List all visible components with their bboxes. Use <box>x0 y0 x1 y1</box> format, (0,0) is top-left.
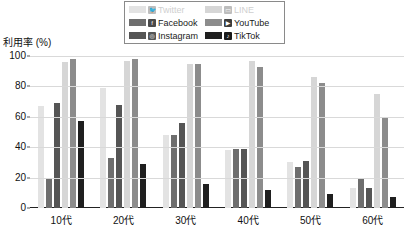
y-tick-mark <box>27 56 30 57</box>
y-tick-mark <box>27 86 30 87</box>
bar-facebook-30代 <box>171 135 177 208</box>
bar-facebook-10代 <box>46 179 52 208</box>
bar-twitter-30代 <box>163 135 169 208</box>
bar-facebook-50代 <box>295 167 301 208</box>
y-tick-mark <box>27 177 30 178</box>
x-tick-label-50代: 50代 <box>279 215 341 226</box>
bar-instagram-30代 <box>179 123 185 208</box>
y-tick-mark <box>27 208 30 209</box>
bar-instagram-50代 <box>303 161 309 208</box>
bar-youtube-50代 <box>319 83 325 208</box>
gridline <box>30 86 404 87</box>
bar-youtube-30代 <box>195 64 201 208</box>
y-tick-label: 40 <box>15 142 26 152</box>
bar-tiktok-60代 <box>390 197 396 208</box>
y-tick-label: 100 <box>9 51 26 61</box>
bar-group-20代: 20代 <box>92 56 154 208</box>
bar-line-60代 <box>374 94 380 208</box>
bar-tiktok-50代 <box>327 194 333 208</box>
bar-instagram-10代 <box>54 103 60 208</box>
y-tick-mark <box>27 116 30 117</box>
bar-line-20代 <box>124 61 130 208</box>
bar-group-40代: 40代 <box>217 56 279 208</box>
bar-line-10代 <box>62 62 68 208</box>
bar-facebook-60代 <box>358 179 364 208</box>
chart-screenshot: 🐦Twitter▭LINEfFacebook▶YouTube◎Instagram… <box>0 0 410 239</box>
x-tick-label-40代: 40代 <box>217 215 279 226</box>
plot-area: 10代20代30代40代50代60代 020406080100 <box>30 56 404 208</box>
x-tick-label-60代: 60代 <box>342 215 404 226</box>
x-tick-label-10代: 10代 <box>30 215 92 226</box>
gridline <box>30 147 404 148</box>
bar-group-10代: 10代 <box>30 56 92 208</box>
gridline <box>30 56 404 57</box>
y-tick-label: 20 <box>15 173 26 183</box>
bar-group-30代: 30代 <box>155 56 217 208</box>
bar-youtube-10代 <box>70 59 76 208</box>
bar-group-50代: 50代 <box>279 56 341 208</box>
bar-twitter-50代 <box>287 162 293 208</box>
bar-line-50代 <box>311 77 317 208</box>
bar-youtube-20代 <box>132 59 138 208</box>
bar-youtube-60代 <box>382 118 388 208</box>
x-tick-label-20代: 20代 <box>92 215 154 226</box>
bar-groups: 10代20代30代40代50代60代 <box>30 56 404 208</box>
bar-tiktok-30代 <box>203 184 209 208</box>
bar-youtube-40代 <box>257 67 263 208</box>
bar-twitter-40代 <box>225 150 231 208</box>
bar-twitter-10代 <box>38 106 44 208</box>
bar-instagram-20代 <box>116 105 122 208</box>
y-tick-label: 80 <box>15 81 26 91</box>
y-tick-mark <box>27 147 30 148</box>
bar-instagram-60代 <box>366 188 372 208</box>
bar-twitter-60代 <box>350 188 356 208</box>
gridline <box>30 178 404 179</box>
y-tick-label: 0 <box>20 203 26 213</box>
bar-tiktok-40代 <box>265 190 271 208</box>
bar-facebook-20代 <box>108 158 114 208</box>
y-tick-label: 60 <box>15 112 26 122</box>
bar-group-60代: 60代 <box>342 56 404 208</box>
x-tick-label-30代: 30代 <box>155 215 217 226</box>
bar-line-30代 <box>187 64 193 208</box>
bar-tiktok-10代 <box>78 121 84 208</box>
gridline <box>30 117 404 118</box>
bar-tiktok-20代 <box>140 164 146 208</box>
bar-line-40代 <box>249 61 255 208</box>
plot-wrapper: 10代20代30代40代50代60代 020406080100 <box>0 0 410 239</box>
